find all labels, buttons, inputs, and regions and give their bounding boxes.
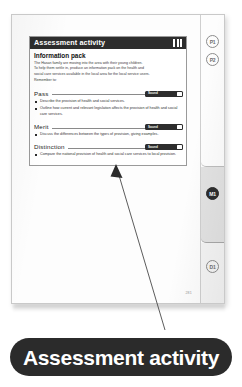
criterion-merit-badge: Sound xyxy=(145,124,183,130)
criterion-distinction-badge-chip xyxy=(177,145,182,149)
textbook-page: P1 P2 M1 D1 Assessment activity Informat… xyxy=(11,14,225,304)
criterion-pass-bullets: Describe the provision of health and soc… xyxy=(34,99,182,118)
activity-header-title: Assessment activity xyxy=(34,39,105,46)
grade-pill-m1: M1 xyxy=(206,187,219,200)
criterion-merit: Merit Sound Discuss the differences betw… xyxy=(34,121,182,138)
criterion-pass-label: Pass xyxy=(34,91,52,97)
criterion-pass-head: Pass Sound xyxy=(34,88,182,97)
tab-segment-bottom xyxy=(201,243,224,303)
criterion-merit-head: Merit Sound xyxy=(34,121,182,130)
activity-header-bar: Assessment activity xyxy=(30,37,186,49)
grade-pill-d1: D1 xyxy=(206,260,219,273)
criterion-merit-bullets: Discuss the differences between the type… xyxy=(34,132,182,138)
information-pack-heading: Information pack xyxy=(34,52,182,59)
grade-pill-p1-label: P1 xyxy=(210,39,216,45)
criterion-distinction-label: Distinction xyxy=(34,144,68,150)
scanned-page-root: P1 P2 M1 D1 Assessment activity Informat… xyxy=(0,0,242,387)
criterion-distinction: Distinction Sound Compare the national p… xyxy=(34,141,182,158)
criterion-distinction-bullets: Compare the national provision of health… xyxy=(34,152,182,158)
criterion-pass-badge-label: Sound xyxy=(148,92,158,95)
list-item: Outline how current and relevant legisla… xyxy=(34,106,182,118)
tab-segment-middle xyxy=(201,167,224,243)
grade-pill-p1: P1 xyxy=(206,35,219,48)
list-item: Describe the provision of health and soc… xyxy=(34,99,182,105)
header-bars-icon xyxy=(173,39,182,47)
list-item: Compare the national provision of health… xyxy=(34,152,182,158)
grade-pill-p2-label: P2 xyxy=(210,57,216,63)
grade-pill-m1-label: M1 xyxy=(209,191,216,197)
margin-tab-strip: P1 P2 M1 D1 xyxy=(200,15,224,303)
caption-pill-label: Assessment activity xyxy=(23,347,219,368)
criterion-merit-badge-label: Sound xyxy=(148,126,158,129)
grade-pill-d1-label: D1 xyxy=(210,264,216,270)
criterion-distinction-badge-label: Sound xyxy=(148,146,158,149)
list-item: Discuss the differences between the type… xyxy=(34,132,182,138)
caption-pill: Assessment activity xyxy=(10,338,232,376)
criterion-pass-badge: Sound xyxy=(145,91,183,97)
criterion-distinction-badge: Sound xyxy=(145,144,183,150)
page-number: 281 xyxy=(185,291,192,295)
activity-body: Information pack The Hasan family are mo… xyxy=(30,49,186,165)
criterion-pass: Pass Sound Describe the provision of hea… xyxy=(34,88,182,118)
intro-paragraph: The Hasan family are moving into the are… xyxy=(34,61,182,84)
grade-pill-p2: P2 xyxy=(206,53,219,66)
criterion-merit-badge-chip xyxy=(177,125,182,129)
assessment-activity-box: Assessment activity Information pack The… xyxy=(29,36,187,166)
intro-line-4: Remember to: xyxy=(34,78,182,84)
criterion-merit-label: Merit xyxy=(34,124,52,130)
criterion-distinction-head: Distinction Sound xyxy=(34,141,182,150)
page-shadow xyxy=(13,305,225,312)
criterion-pass-badge-chip xyxy=(177,92,182,96)
